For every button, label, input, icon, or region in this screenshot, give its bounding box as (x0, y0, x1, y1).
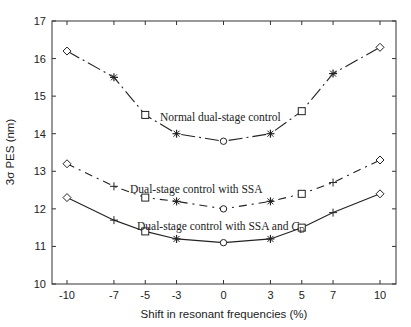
marker-circle (220, 138, 226, 144)
x-tick-label: 5 (299, 289, 305, 301)
y-axis-ticks: 1011121314151617 (34, 15, 396, 290)
series-0 (63, 43, 384, 144)
marker-circle (220, 206, 226, 212)
y-tick-label: 16 (34, 53, 46, 65)
y-tick-label: 17 (34, 15, 46, 27)
annotation-ssa: Dual-stage control with SSA (130, 183, 263, 196)
marker-diamond (376, 43, 384, 51)
annotation-ssa-cd: Dual-stage control with SSA and CD (137, 220, 305, 235)
marker-square (142, 194, 149, 201)
annotation-normal: Normal dual-stage control (160, 111, 281, 124)
marker-diamond (63, 47, 71, 55)
x-axis-label: Shift in resonant frequencies (%) (141, 308, 308, 320)
x-tick-label: -3 (172, 289, 182, 301)
series-2 (63, 190, 384, 246)
marker-square (298, 190, 305, 197)
x-tick-label: -5 (140, 289, 150, 301)
y-tick-label: 12 (34, 203, 46, 215)
y-tick-label: 15 (34, 90, 46, 102)
x-tick-label: 0 (220, 289, 226, 301)
x-tick-label: 10 (374, 289, 386, 301)
marker-circle (220, 239, 226, 245)
marker-square (142, 111, 149, 118)
x-axis-ticks: -10-7-5-3035710 (59, 21, 386, 301)
marker-diamond (63, 160, 71, 168)
marker-diamond (376, 156, 384, 164)
data-series (63, 43, 384, 246)
line-chart: -10-7-5-3035710 1011121314151617 Shift i… (0, 0, 411, 327)
x-tick-label: -7 (109, 289, 119, 301)
x-tick-label: 3 (267, 289, 273, 301)
marker-square (298, 108, 305, 115)
marker-diamond (376, 190, 384, 198)
x-tick-label: 7 (330, 289, 336, 301)
marker-diamond (63, 194, 71, 202)
y-tick-label: 10 (34, 278, 46, 290)
y-tick-label: 11 (35, 240, 46, 252)
y-tick-label: 14 (34, 128, 46, 140)
x-tick-label: -10 (59, 289, 75, 301)
y-axis-label: 3σ PES (nm) (4, 119, 16, 186)
y-tick-label: 13 (34, 165, 46, 177)
